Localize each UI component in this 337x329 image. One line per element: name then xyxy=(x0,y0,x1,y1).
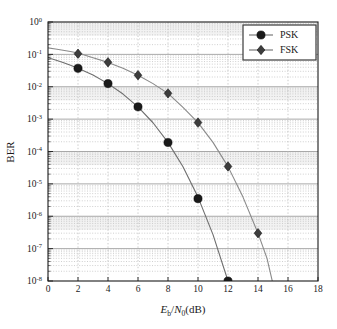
x-tick-label: 16 xyxy=(283,284,293,294)
data-marker-circle xyxy=(164,138,172,146)
x-tick-label: 18 xyxy=(313,284,323,294)
data-marker-circle xyxy=(74,64,82,72)
chart-legend[interactable]: PSKFSK xyxy=(243,25,316,60)
x-tick-label: 6 xyxy=(136,284,141,294)
y-axis-label: BER xyxy=(4,141,16,163)
ber-chart-svg: 024681012141618 10010-110-210-310-410-51… xyxy=(0,0,337,329)
data-marker-circle xyxy=(257,31,265,39)
data-marker-circle xyxy=(194,195,202,203)
legend-label: PSK xyxy=(280,29,299,40)
y-axis-label-text: BER xyxy=(4,141,16,163)
x-tick-label: 14 xyxy=(253,284,263,294)
x-tick-label: 0 xyxy=(46,284,51,294)
x-label-unit: (dB) xyxy=(185,303,206,316)
x-tick-label: 10 xyxy=(193,284,203,294)
x-tick-label: 8 xyxy=(166,284,171,294)
data-marker-circle xyxy=(134,103,142,111)
grid-band xyxy=(48,152,318,166)
grid-band xyxy=(48,87,318,101)
data-marker-circle xyxy=(104,80,112,88)
x-tick-label: 2 xyxy=(76,284,81,294)
chart-figure-root: 024681012141618 10010-110-210-310-410-51… xyxy=(0,0,337,329)
grid-band xyxy=(48,216,318,230)
x-tick-label: 4 xyxy=(106,284,111,294)
x-tick-label: 12 xyxy=(223,284,233,294)
legend-label: FSK xyxy=(280,44,299,55)
